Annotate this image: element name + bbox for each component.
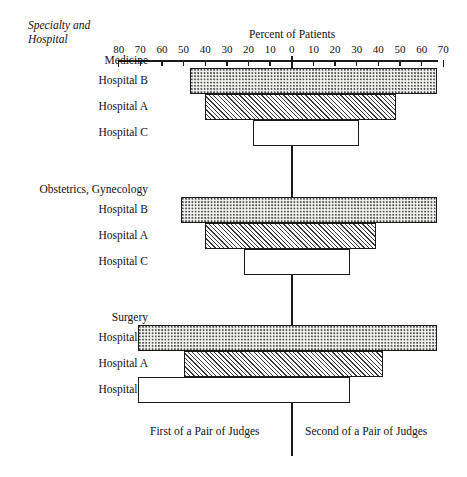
bar-medicine-hospital-c xyxy=(253,120,359,146)
x-axis-tick-label: 70 xyxy=(430,43,456,55)
group-label-surgery: Surgery xyxy=(112,311,148,323)
row-label-hospital-b: Hospital B xyxy=(98,74,148,86)
x-axis-tick xyxy=(356,60,357,66)
x-axis-tick xyxy=(269,60,270,66)
x-axis-tick xyxy=(205,60,206,66)
axis-corner-caption: Specialty and Hospital xyxy=(28,18,90,46)
row-label-hospital-a: Hospital A xyxy=(98,357,148,369)
row-label-hospital-c: Hospital C xyxy=(98,255,148,267)
group-label-obstetrics-gynecology: Obstetrics, Gynecology xyxy=(39,183,148,195)
x-axis-tick xyxy=(443,60,444,67)
bar-surgery-hospital-b xyxy=(138,325,437,351)
footer-label-right: Second of a Pair of Judges xyxy=(305,425,427,437)
x-axis-tick xyxy=(161,60,162,66)
row-label-hospital-b: Hospital B xyxy=(98,203,148,215)
x-axis-title: Percent of Patients xyxy=(172,28,412,40)
x-axis-tick xyxy=(183,60,184,66)
bar-obstetrics-gynecology-hospital-a xyxy=(205,223,376,249)
row-label-hospital-c: Hospital C xyxy=(98,126,148,138)
x-axis-tick xyxy=(226,60,227,66)
bar-obstetrics-gynecology-hospital-b xyxy=(181,197,436,223)
x-axis-tick xyxy=(248,60,249,66)
bar-surgery-hospital-c xyxy=(138,377,350,403)
x-axis-tick xyxy=(421,60,422,66)
row-label-hospital-a: Hospital A xyxy=(98,100,148,112)
diverging-bar-chart: Specialty and Hospital Percent of Patien… xyxy=(0,0,467,477)
x-axis-tick xyxy=(334,60,335,66)
x-axis-tick xyxy=(313,60,314,66)
bar-medicine-hospital-b xyxy=(190,68,437,94)
group-label-medicine: Medicine xyxy=(105,54,148,66)
x-axis-tick xyxy=(399,60,400,66)
row-label-hospital-a: Hospital A xyxy=(98,229,148,241)
bar-surgery-hospital-a xyxy=(184,351,383,377)
x-axis-tick xyxy=(378,60,379,66)
bar-obstetrics-gynecology-hospital-c xyxy=(244,249,350,275)
x-axis-tick-labels: 8070605040302010010203040506070 xyxy=(0,43,467,57)
footer-label-left: First of a Pair of Judges xyxy=(150,425,260,437)
bar-medicine-hospital-a xyxy=(205,94,395,120)
x-axis-line xyxy=(118,60,438,62)
